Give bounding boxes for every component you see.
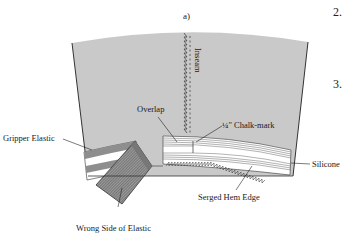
inseam-label: Inseam [194,48,203,73]
gripper-elastic-label: Gripper Elastic [3,134,55,143]
step-number-3: 3. [333,78,342,90]
chalk-mark-label: ¼" Chalk-mark [222,121,275,130]
overlap-label: Overlap [137,105,164,114]
step-number-2: 2. [333,6,342,18]
diagram-canvas [0,0,346,235]
panel-label: a) [183,12,190,21]
silicone-label: Silicone [312,160,340,169]
wrong-side-of-elastic-label: Wrong Side of Elastic [76,224,151,233]
serged-hem-edge-label: Serged Hem Edge [198,193,260,202]
